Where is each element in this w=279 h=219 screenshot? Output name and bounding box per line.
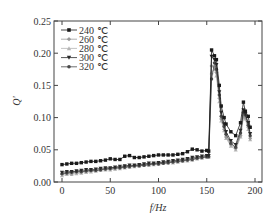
y-tick-label: 0.15 — [34, 80, 52, 91]
y-axis-label: Q' — [11, 95, 22, 105]
x-axis-label: f/Hz — [150, 202, 167, 213]
x-tick-label: 0 — [60, 185, 65, 196]
line-chart: 050100150200 0.000.050.100.150.200.25 24… — [0, 0, 279, 219]
x-tick-label: 100 — [151, 185, 166, 196]
y-tick-label: 0.05 — [34, 144, 52, 155]
legend-item: 320 ℃ — [61, 61, 108, 72]
x-tick-label: 50 — [105, 185, 115, 196]
legend: 240 ℃260 ℃280 ℃300 ℃320 ℃ — [61, 25, 108, 73]
x-tick-label: 150 — [199, 185, 214, 196]
legend-label: 320 ℃ — [79, 61, 108, 72]
y-tick-label: 0.20 — [34, 48, 52, 59]
x-tick-label: 200 — [248, 185, 263, 196]
y-tick-label: 0.25 — [34, 16, 52, 27]
y-tick-label: 0.10 — [34, 112, 52, 123]
y-tick-label: 0.00 — [34, 177, 52, 188]
